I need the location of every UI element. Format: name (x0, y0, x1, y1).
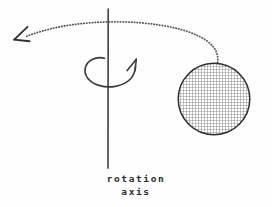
rotation-axis-label-line-1: rotation (0, 172, 272, 185)
rotation-axis-label-line-2: axis (0, 185, 272, 198)
rotation-axis-diagram: rotation axis (0, 0, 272, 207)
spin-direction-arrow (85, 58, 136, 87)
orbit-direction-arrowhead (14, 27, 29, 41)
rotating-body-sphere (178, 63, 250, 135)
orbit-trajectory-dotted-curve (27, 22, 218, 63)
